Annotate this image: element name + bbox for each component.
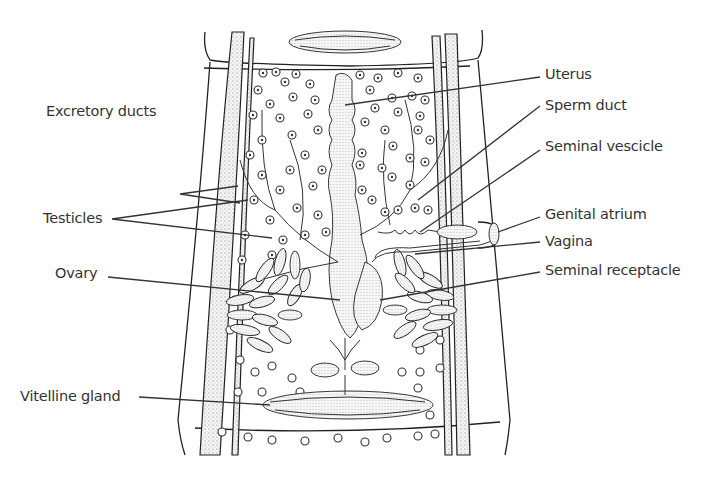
label-genital-atrium: Genital atrium: [545, 207, 647, 222]
reproductive-ducts: [372, 222, 499, 262]
label-seminal-receptacle: Seminal receptacle: [545, 263, 681, 278]
label-sperm-duct: Sperm duct: [545, 98, 627, 113]
proglottid-diagram: [0, 0, 718, 480]
label-uterus: Uterus: [545, 67, 592, 82]
label-ovary: Ovary: [55, 266, 97, 281]
label-vitelline-gland: Vitelline gland: [20, 389, 121, 404]
label-testicles: Testicles: [43, 211, 102, 226]
label-excretory-ducts: Excretory ducts: [46, 104, 156, 119]
excretory-ducts-right: [432, 34, 470, 455]
label-vagina: Vagina: [545, 234, 593, 249]
vitelline-gland: [263, 375, 433, 419]
top-vitelline-remnant: [289, 31, 401, 53]
label-seminal-vesicle: Seminal vescicle: [545, 139, 663, 154]
